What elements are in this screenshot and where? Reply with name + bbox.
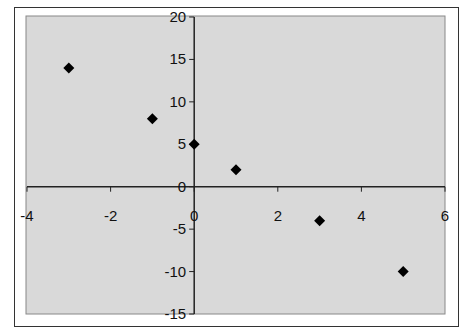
y-tick-label: -5 — [173, 220, 186, 237]
y-tick-label: 20 — [170, 8, 187, 25]
x-tick-label: -2 — [104, 207, 117, 224]
y-tick-label: 10 — [170, 93, 187, 110]
x-tick-label: 6 — [441, 207, 449, 224]
y-tick-label: 0 — [178, 178, 186, 195]
x-tick-label: 4 — [357, 207, 365, 224]
x-tick-label: 0 — [190, 207, 198, 224]
y-tick-label: -15 — [165, 305, 187, 322]
y-tick-label: 5 — [178, 135, 186, 152]
x-tick-label: 2 — [274, 207, 282, 224]
x-tick-label: -4 — [20, 207, 33, 224]
y-tick-label: 15 — [170, 50, 187, 67]
y-tick-label: -10 — [165, 263, 187, 280]
